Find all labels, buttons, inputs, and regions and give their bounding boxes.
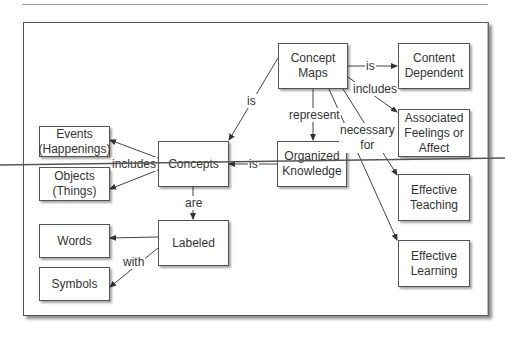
node-label: Associated Feelings or Affect bbox=[404, 111, 463, 156]
node-effective-learning: Effective Learning bbox=[398, 240, 470, 287]
node-label: Objects (Things) bbox=[52, 169, 96, 199]
link-label-is-content: is bbox=[365, 59, 376, 73]
node-content-dependent: Content Dependent bbox=[398, 43, 470, 89]
node-concept-maps: Concept Maps bbox=[278, 43, 348, 89]
node-labeled: Labeled bbox=[158, 220, 229, 266]
link-label-is-concepts: is bbox=[246, 94, 257, 108]
node-label: Words bbox=[57, 234, 91, 249]
node-objects: Objects (Things) bbox=[39, 167, 110, 201]
node-label: Events (Happenings) bbox=[38, 127, 110, 157]
link-label-is-organized: is bbox=[248, 157, 259, 171]
node-label: Concept Maps bbox=[291, 51, 336, 81]
node-events: Events (Happenings) bbox=[39, 126, 110, 157]
link-label-includes: includes bbox=[111, 157, 157, 171]
node-label: Labeled bbox=[172, 236, 215, 251]
link-label-includes-feelings: includes bbox=[352, 82, 398, 96]
node-label: Concepts bbox=[168, 157, 219, 172]
node-label: Effective Teaching bbox=[410, 183, 458, 213]
node-label: Effective Learning bbox=[411, 249, 458, 279]
node-words: Words bbox=[39, 224, 110, 258]
node-effective-teaching: Effective Teaching bbox=[398, 174, 470, 221]
link-label-represent: represent bbox=[288, 108, 341, 122]
node-label: Content Dependent bbox=[405, 51, 464, 81]
node-organized-knowledge: Organized Knowledge bbox=[277, 141, 347, 187]
node-symbols: Symbols bbox=[39, 267, 110, 301]
link-label-with: with bbox=[122, 255, 145, 269]
node-label: Organized Knowledge bbox=[282, 149, 341, 179]
node-label: Symbols bbox=[51, 277, 97, 292]
link-label-necessary-for: necessary for bbox=[339, 123, 396, 153]
link-label-are: are bbox=[184, 196, 203, 210]
node-concepts: Concepts bbox=[158, 141, 229, 187]
node-associated-feelings: Associated Feelings or Affect bbox=[398, 109, 470, 157]
